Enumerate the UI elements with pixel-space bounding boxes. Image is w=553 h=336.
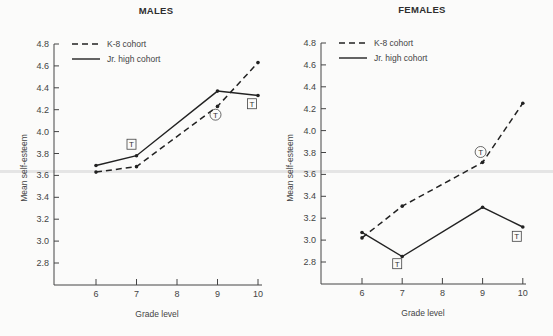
series-line-solid [362,207,523,256]
x-tick-label: 9 [480,288,485,298]
y-tick-label: 4.4 [36,83,49,93]
legend-label: K-8 cohort [374,38,414,48]
y-tick-label: 4.8 [36,39,49,49]
data-point [256,94,260,98]
x-tick-label: 7 [400,288,405,298]
x-tick-label: 10 [518,288,528,298]
y-tick-label: 3.2 [303,213,316,223]
y-tick-label: 4.6 [36,61,49,71]
y-tick-label: 3.0 [303,235,316,245]
marker-label: T [129,140,134,149]
series-line-solid [96,91,258,165]
axis-lines [321,43,526,284]
scan-band [0,170,553,173]
y-tick-label: 3.8 [36,149,49,159]
marker-label: T [395,260,400,269]
data-point [216,105,220,109]
data-point [94,170,98,174]
y-tick-label: 4.2 [36,105,49,115]
y-tick-label: 3.2 [36,214,49,224]
y-tick-label: 4.6 [303,60,316,70]
males-title: MALES [139,5,174,16]
y-tick-label: 4.4 [303,82,316,92]
data-point [481,161,485,165]
data-point [256,61,260,65]
y-tick-label: 2.8 [36,258,49,268]
marker-label: T [514,232,519,241]
x-axis-label: Grade level [401,308,445,318]
males-chart: MALES 2.83.03.23.43.63.84.04.24.44.64.86… [19,5,263,319]
data-point [521,225,525,229]
data-point [521,101,525,105]
y-tick-label: 4.8 [303,38,316,48]
y-tick-label: 2.8 [303,257,316,267]
data-point [360,236,364,240]
y-tick-label: 4.0 [303,126,316,136]
data-point [481,205,485,209]
marker-label: T [213,111,218,120]
y-tick-label: 3.8 [303,148,316,158]
x-tick-label: 7 [134,289,139,299]
data-point [135,165,139,169]
data-point [94,164,98,168]
legend-label: Jr. high cohort [374,53,428,63]
x-tick-label: 6 [359,288,364,298]
data-point [400,255,404,259]
y-tick-label: 4.0 [36,127,49,137]
axis-lines [54,44,262,285]
x-tick-label: 8 [440,288,445,298]
x-tick-label: 6 [93,289,98,299]
legend-label: K-8 cohort [107,39,147,49]
legend-label: Jr. high cohort [107,54,161,64]
y-tick-label: 3.4 [303,191,316,201]
y-tick-label: 3.4 [36,192,49,202]
marker-label: T [478,148,483,157]
data-point [360,231,364,235]
females-chart: FEMALES 2.83.03.23.43.63.84.04.24.44.64.… [285,4,528,318]
y-tick-label: 3.6 [303,169,316,179]
x-tick-label: 8 [174,289,179,299]
data-point [400,204,404,208]
data-point [216,89,220,93]
series-line-dashed [96,63,258,173]
x-axis-label: Grade level [135,309,179,319]
y-tick-label: 3.6 [36,170,49,180]
x-tick-label: 9 [215,289,220,299]
chart-figure: MALES 2.83.03.23.43.63.84.04.24.44.64.86… [0,0,553,336]
y-axis-label: Mean self-esteem [19,134,29,202]
x-tick-label: 10 [253,289,263,299]
y-tick-label: 4.2 [303,104,316,114]
y-tick-label: 3.0 [36,236,49,246]
marker-label: T [250,100,255,109]
females-title: FEMALES [398,4,446,15]
y-axis-label: Mean self-esteem [285,134,295,202]
data-point [135,154,139,158]
